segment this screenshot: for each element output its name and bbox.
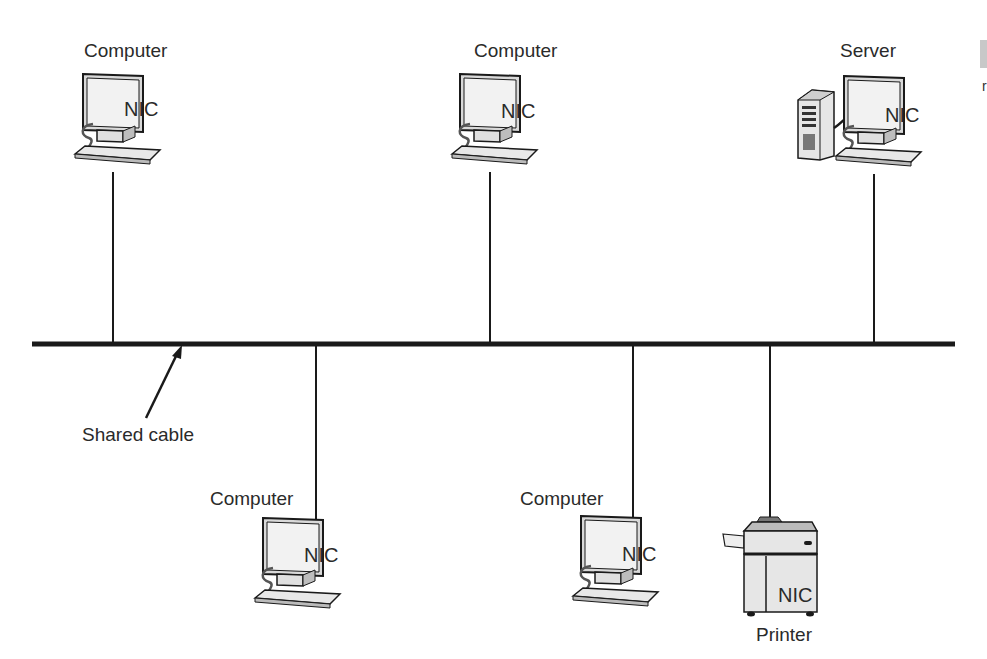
node-computer-top-left: Computer NIC	[75, 40, 168, 164]
node-printer: NIC Printer	[723, 517, 817, 645]
node-label: Printer	[756, 624, 813, 645]
node-computer-top-center: Computer NIC	[452, 40, 558, 164]
node-label: Computer	[210, 488, 294, 509]
nic-label: NIC	[501, 100, 535, 122]
clipped-edge-element	[980, 40, 987, 68]
clipped-edge-text: r	[982, 78, 987, 94]
node-label: Server	[840, 40, 897, 61]
shared-cable-label: Shared cable	[82, 424, 194, 445]
nic-label: NIC	[885, 104, 919, 126]
nic-label: NIC	[778, 584, 812, 606]
nic-label: NIC	[304, 544, 338, 566]
node-computer-bottom-center: Computer NIC	[520, 488, 658, 606]
node-server: Server NIC	[798, 40, 921, 166]
node-computer-bottom-left: Computer NIC	[210, 488, 340, 608]
node-label: Computer	[84, 40, 168, 61]
nic-label: NIC	[622, 543, 656, 565]
node-label: Computer	[474, 40, 558, 61]
node-label: Computer	[520, 488, 604, 509]
nic-label: NIC	[124, 98, 158, 120]
bus-topology-diagram: Shared cable Computer NIC Computer NIC S…	[0, 0, 987, 659]
